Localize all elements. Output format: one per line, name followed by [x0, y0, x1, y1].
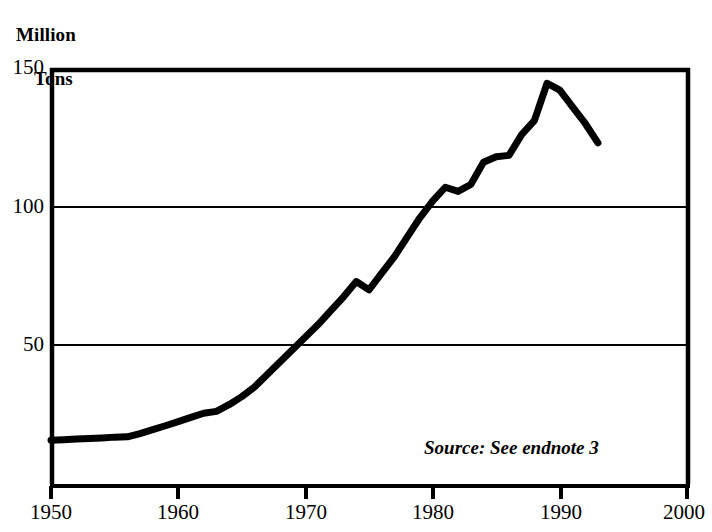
x-tick-label-1970: 1970: [285, 502, 327, 523]
source-annotation: Source: See endnote 3: [424, 438, 599, 458]
x-tick-label-1960: 1960: [157, 502, 199, 523]
chart-figure: Million Tons 150 100 50: [0, 0, 712, 532]
data-series-line: [51, 83, 598, 440]
chart-plot-svg: [0, 0, 712, 532]
gridlines: [50, 207, 690, 345]
x-tick-label-1950: 1950: [30, 502, 72, 523]
x-tick-label-2000: 2000: [663, 502, 705, 523]
x-tick-label-1990: 1990: [540, 502, 582, 523]
x-axis: [50, 486, 690, 499]
x-tick-label-1980: 1980: [412, 502, 454, 523]
